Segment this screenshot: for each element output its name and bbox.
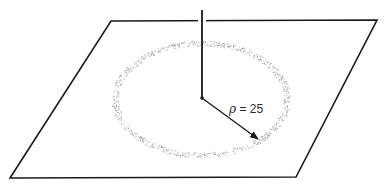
equals-sign: = (236, 102, 250, 116)
rho-symbol: ρ (229, 102, 236, 116)
radius-label: ρ = 25 (229, 102, 263, 116)
radius-value: 25 (250, 102, 263, 116)
plane-diagram (0, 0, 388, 191)
diagram-canvas: ρ = 25 (0, 0, 388, 191)
